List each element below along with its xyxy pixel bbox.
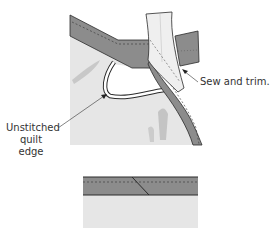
binding-tail <box>175 31 199 66</box>
quilt-bottom <box>83 194 198 228</box>
sew-and-trim-label: Sew and trim. <box>200 76 270 88</box>
binding-diagram <box>0 0 279 239</box>
unstitched-label-line2: quilt edge <box>6 134 56 158</box>
unstitched-label-line1: Unstitched <box>6 122 56 134</box>
unstitched-edge-label: Unstitched quilt edge <box>6 122 56 158</box>
